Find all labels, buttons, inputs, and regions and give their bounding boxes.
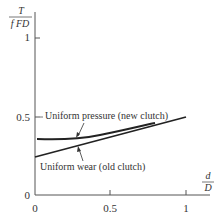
uniform-pressure-curve bbox=[37, 123, 155, 139]
uniform-wear-line bbox=[35, 117, 186, 157]
x-tick-0: 0 bbox=[32, 202, 38, 214]
y-tick-1: 1 bbox=[25, 31, 31, 43]
y-tick-0.5: 0.5 bbox=[16, 111, 30, 123]
x-axis-label: d D bbox=[202, 170, 214, 193]
svg-text:d: d bbox=[206, 170, 212, 181]
svg-text:T: T bbox=[18, 5, 25, 16]
y-axis-label: T f FD bbox=[9, 5, 32, 29]
svg-text:D: D bbox=[203, 182, 212, 193]
x-tick-1: 1 bbox=[183, 202, 189, 214]
svg-text:f FD: f FD bbox=[11, 18, 30, 29]
svg-text:Uniform wear (old clutch): Uniform wear (old clutch) bbox=[40, 161, 145, 173]
svg-text:Uniform pressure (new clutch): Uniform pressure (new clutch) bbox=[45, 110, 168, 122]
annotation-uniform-wear: Uniform wear (old clutch) bbox=[40, 146, 145, 173]
x-tick-0.5: 0.5 bbox=[103, 202, 117, 214]
y-tick-0: 0 bbox=[25, 189, 31, 201]
x-axis bbox=[35, 190, 210, 195]
clutch-torque-chart: 1 0.5 0 0 0.5 1 T f FD d D Uniform press… bbox=[0, 0, 224, 221]
